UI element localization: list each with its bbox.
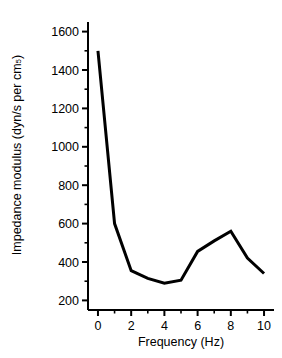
x-axis-tick-labels: 0246810 bbox=[94, 319, 271, 333]
y-tick-label: 1400 bbox=[51, 64, 79, 78]
x-tick-label: 10 bbox=[257, 319, 271, 333]
x-tick-label: 8 bbox=[227, 319, 234, 333]
y-tick-label: 200 bbox=[58, 294, 79, 308]
y-tick-label: 1200 bbox=[51, 102, 79, 116]
data-line bbox=[98, 51, 264, 283]
x-tick-label: 6 bbox=[194, 319, 201, 333]
x-tick-label: 2 bbox=[128, 319, 135, 333]
y-axis-tick-labels: 2004006008001000120014001600 bbox=[51, 25, 79, 308]
y-tick-label: 1000 bbox=[51, 140, 79, 154]
chart-figure: 2004006008001000120014001600 0246810 Imp… bbox=[0, 0, 282, 358]
chart-axes bbox=[88, 22, 274, 310]
y-tick-label: 1600 bbox=[51, 25, 79, 39]
x-tick-label: 4 bbox=[161, 319, 168, 333]
y-tick-label: 800 bbox=[58, 179, 79, 193]
data-series-group bbox=[98, 51, 264, 283]
line-chart-plot: 2004006008001000120014001600 0246810 bbox=[0, 0, 282, 358]
y-tick-label: 400 bbox=[58, 256, 79, 270]
x-tick-label: 0 bbox=[94, 319, 101, 333]
y-tick-label: 600 bbox=[58, 217, 79, 231]
